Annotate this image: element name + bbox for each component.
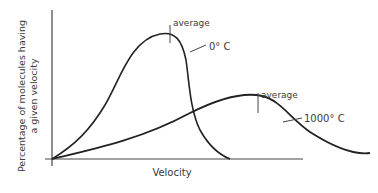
leader-0c xyxy=(190,45,206,52)
curve-0c xyxy=(52,33,230,159)
x-axis-label: Velocity xyxy=(152,167,191,178)
chart: average 0° C average 1000° C Velocity Pe… xyxy=(0,0,378,193)
average-label-0c: average xyxy=(173,18,210,28)
y-axis-label-line1: Percentage of molecules having xyxy=(16,20,27,172)
average-label-1000c: average xyxy=(261,90,298,100)
series-label-1000c: 1000° C xyxy=(304,113,345,124)
y-axis-label: Percentage of molecules having a given v… xyxy=(16,20,39,172)
leader-1000c xyxy=(283,118,302,122)
curve-1000c xyxy=(52,95,370,159)
y-axis-label-line2: a given velocity xyxy=(28,58,39,134)
series-label-0c: 0° C xyxy=(209,41,231,52)
